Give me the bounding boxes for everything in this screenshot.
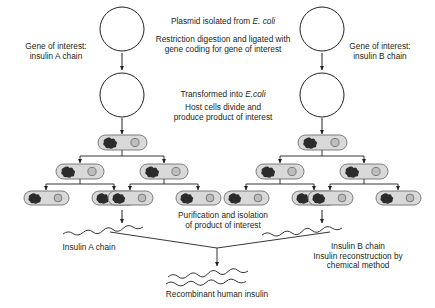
transformed-text: Transformed into xyxy=(180,89,245,99)
protein-chain-insulin-a xyxy=(63,226,143,235)
label-transformed-into-ecoli: Transformed into E.coli xyxy=(152,90,294,100)
label-restriction-digestion: Restriction digestion and ligated with g… xyxy=(143,35,303,54)
ecoli-italic-2: E.coli xyxy=(245,89,265,99)
label-recombinant-human-insulin: Recombinant human insulin xyxy=(147,290,287,300)
restriction-line1: Restriction digestion and ligated with xyxy=(156,34,291,44)
bacterium-cell xyxy=(376,191,421,205)
label-gene-of-interest-left: Gene of interest: insulin A chain xyxy=(4,42,108,61)
bacterium-cell xyxy=(298,135,347,150)
gene-left-line1: Gene of interest: xyxy=(25,41,86,51)
label-gene-of-interest-right: Gene of interest: insulin B chain xyxy=(328,42,432,61)
plasmid-recombinant-left xyxy=(100,73,144,117)
label-host-cells-divide: Host cells divide and produce product of… xyxy=(146,103,300,122)
bacterium-cell xyxy=(98,135,147,150)
bacterium-cell xyxy=(56,164,104,179)
bacterium-cell xyxy=(140,164,188,179)
plasmid-isolated-text: Plasmid isolated from xyxy=(171,16,253,26)
bacterium-cell xyxy=(256,164,304,179)
bacterium-cell xyxy=(24,191,69,205)
diagram-canvas: Gene of interest: insulin A chain Gene o… xyxy=(0,0,435,308)
bacterium-cell xyxy=(340,164,388,179)
host-line1: Host cells divide and xyxy=(185,102,261,112)
bacterium-cell xyxy=(224,191,269,205)
ecoli-italic-1: E. coli xyxy=(253,16,276,26)
bacterium-cell xyxy=(108,191,153,205)
plasmid-recombinant-right xyxy=(300,73,344,117)
gene-right-line1: Gene of interest: xyxy=(349,41,410,51)
gene-left-line2: insulin A chain xyxy=(30,51,83,61)
bacterium-cell xyxy=(176,191,221,205)
label-insulin-a-chain: Insulin A chain xyxy=(34,243,144,253)
gene-right-line2: insulin B chain xyxy=(353,51,407,61)
label-insulin-b-chain-block: Insulin B chain Insulin reconstruction b… xyxy=(288,242,428,271)
division-connector xyxy=(46,179,398,190)
host-line2: produce product of interest xyxy=(174,112,273,122)
reconstruction-line2: chemical method xyxy=(327,260,390,270)
label-purification: Purification and isolation of product of… xyxy=(152,211,294,230)
purification-line1: Purification and isolation xyxy=(178,210,268,220)
bacterium-cell xyxy=(308,191,353,205)
recombinant-insulin-chain-2 xyxy=(166,279,246,286)
reconstruction-line1: Insulin reconstruction by xyxy=(313,251,402,261)
label-plasmid-isolated: Plasmid isolated from E. coli xyxy=(152,17,294,27)
division-connector xyxy=(80,150,364,163)
restriction-line2: gene coding for gene of interest xyxy=(165,44,282,54)
recombinant-insulin-chain-1 xyxy=(168,269,248,279)
purification-line2: of product of interest xyxy=(185,220,261,230)
insulin-b-chain-text: Insulin B chain xyxy=(331,241,385,251)
